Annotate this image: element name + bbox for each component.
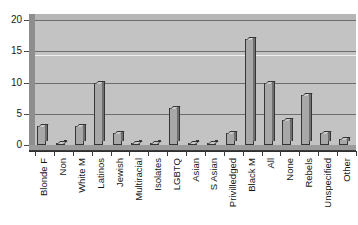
x-tick-mark — [148, 151, 149, 156]
bar[interactable] — [150, 143, 159, 145]
bar-slot — [148, 20, 167, 145]
bar-slot — [262, 20, 281, 145]
bar-side-face — [139, 140, 142, 141]
bar[interactable] — [169, 108, 178, 146]
x-axis-labels: Blonde FNonWhite MLatinosJewishMultiraci… — [35, 158, 356, 224]
x-axis-label: Jewish — [115, 158, 125, 187]
bar[interactable] — [282, 120, 291, 145]
bar-slot — [129, 20, 148, 145]
bar[interactable] — [94, 83, 103, 146]
bar-side-face — [121, 131, 124, 142]
x-tick-mark — [111, 151, 112, 156]
y-tick-label: 5 — [16, 109, 22, 119]
x-axis-label: Privilledged — [228, 158, 238, 207]
bar-slot — [299, 20, 318, 145]
x-tick-mark — [54, 151, 55, 156]
bar-side-face — [196, 140, 199, 141]
bar[interactable] — [75, 126, 84, 145]
bar-top-face — [57, 141, 68, 144]
bar-side-face — [215, 140, 218, 141]
x-tick-mark — [337, 151, 338, 156]
bar-slot — [337, 20, 356, 145]
bar[interactable] — [264, 83, 273, 146]
x-tick-mark — [280, 151, 281, 156]
bar-slot — [243, 20, 262, 145]
x-axis-label: Blonde F — [39, 158, 49, 196]
x-tick-mark — [243, 151, 244, 156]
bar[interactable] — [226, 133, 235, 146]
bar-side-face — [158, 140, 161, 141]
bar-slot — [280, 20, 299, 145]
bar-slot — [35, 20, 54, 145]
bar-top-face — [151, 141, 162, 144]
x-axis-label: Latinos — [96, 158, 106, 189]
x-tick-mark — [356, 151, 357, 156]
bar-side-face — [253, 37, 256, 141]
bar-slot — [318, 20, 337, 145]
bar-side-face — [45, 124, 48, 141]
bar-top-face — [189, 141, 200, 144]
y-tick-label: 0 — [16, 140, 22, 150]
bar-slot — [186, 20, 205, 145]
bar-side-face — [177, 106, 180, 142]
bar-side-face — [347, 137, 350, 141]
bars-layer — [35, 14, 356, 151]
bar-slot — [224, 20, 243, 145]
x-axis-label: S Asian — [209, 158, 219, 190]
bar-side-face — [102, 81, 105, 142]
bar[interactable] — [320, 133, 329, 146]
bar-slot — [73, 20, 92, 145]
bar[interactable] — [188, 143, 197, 145]
bar-slot — [167, 20, 186, 145]
x-axis-label: Isolates — [153, 158, 163, 191]
bar-top-face — [132, 141, 143, 144]
y-tick-label: 15 — [11, 46, 22, 56]
x-axis-ticks — [35, 151, 356, 156]
x-axis-label: Unspecified — [323, 158, 333, 208]
bar-top-face — [208, 141, 219, 144]
bar-side-face — [272, 81, 275, 142]
x-tick-mark — [224, 151, 225, 156]
bar-side-face — [328, 131, 331, 142]
x-tick-mark — [205, 151, 206, 156]
x-tick-mark — [318, 151, 319, 156]
y-tick-label: 10 — [11, 78, 22, 88]
x-tick-mark — [262, 151, 263, 156]
bar-chart: 05101520 Blonde FNonWhite MLatinosJewish… — [0, 0, 358, 225]
x-axis-label: Asian — [191, 158, 201, 182]
x-axis-label: Non — [58, 158, 68, 175]
bar[interactable] — [339, 139, 348, 145]
bar[interactable] — [301, 95, 310, 145]
bar[interactable] — [245, 39, 254, 145]
bar[interactable] — [113, 133, 122, 146]
x-tick-mark — [35, 151, 36, 156]
x-tick-mark — [129, 151, 130, 156]
bar-slot — [54, 20, 73, 145]
x-tick-mark — [167, 151, 168, 156]
bar[interactable] — [131, 143, 140, 145]
bar-slot — [111, 20, 130, 145]
x-axis-label: Other — [342, 158, 352, 182]
bar[interactable] — [37, 126, 46, 145]
x-tick-mark — [186, 151, 187, 156]
bar-slot — [205, 20, 224, 145]
x-axis-label: White M — [77, 158, 87, 193]
y-tick-label: 20 — [11, 15, 22, 25]
bar-side-face — [309, 93, 312, 141]
x-axis-label: Black M — [247, 158, 257, 192]
bar[interactable] — [56, 143, 65, 145]
x-axis-label: LGBTQ — [172, 158, 182, 190]
bar-slot — [92, 20, 111, 145]
x-axis-label: None — [285, 158, 295, 181]
x-tick-mark — [73, 151, 74, 156]
bar-side-face — [234, 131, 237, 142]
bar-side-face — [83, 124, 86, 141]
x-tick-mark — [299, 151, 300, 156]
x-axis-label: Multiracial — [134, 158, 144, 201]
x-axis-label: All — [266, 158, 276, 169]
bar-side-face — [290, 118, 293, 141]
bar[interactable] — [207, 143, 216, 145]
x-axis-label: Rebels — [304, 158, 314, 188]
bar-side-face — [64, 140, 67, 141]
x-tick-mark — [92, 151, 93, 156]
